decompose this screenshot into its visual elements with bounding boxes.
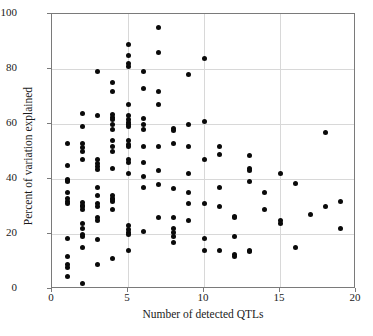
data-point [126, 232, 131, 237]
data-point [186, 201, 191, 206]
data-point [156, 168, 161, 173]
data-point [110, 122, 115, 127]
data-point [95, 69, 100, 74]
data-point [247, 249, 252, 254]
x-tick-label: 10 [188, 292, 218, 303]
data-point [95, 204, 100, 209]
data-point [156, 89, 161, 94]
data-point [156, 25, 161, 30]
x-tick-label: 15 [264, 292, 294, 303]
data-point [80, 157, 85, 162]
data-point [110, 166, 115, 171]
plot-frame [51, 13, 355, 288]
data-point [247, 179, 252, 184]
data-point [171, 234, 176, 239]
data-point [80, 124, 85, 129]
data-point [141, 229, 146, 234]
data-point [232, 234, 237, 239]
data-point [80, 245, 85, 250]
data-point [65, 141, 70, 146]
data-point [232, 215, 237, 220]
data-point [141, 122, 146, 127]
data-point [171, 240, 176, 245]
data-point [65, 236, 70, 241]
data-point [247, 153, 252, 158]
data-point [80, 111, 85, 116]
data-point [338, 199, 343, 204]
data-point [232, 254, 237, 259]
data-point [80, 226, 85, 231]
data-point [95, 185, 100, 190]
data-point [202, 236, 207, 241]
data-point [95, 113, 100, 118]
data-point [278, 221, 283, 226]
data-point [141, 86, 146, 91]
data-point [278, 171, 283, 176]
data-point [95, 193, 100, 198]
y-tick-mark [47, 178, 51, 179]
x-tick-label: 5 [112, 292, 142, 303]
x-tick-mark [127, 288, 128, 292]
data-point [202, 248, 207, 253]
data-point [156, 50, 161, 55]
x-tick-mark [51, 288, 52, 292]
data-point [186, 190, 191, 195]
y-tick-mark [47, 13, 51, 14]
data-point [126, 42, 131, 47]
data-points-layer [52, 14, 354, 287]
data-point [95, 237, 100, 242]
data-point [308, 212, 313, 217]
data-point [80, 281, 85, 286]
data-point [141, 144, 146, 149]
y-tick-mark [47, 68, 51, 69]
y-tick-mark [47, 123, 51, 124]
data-point [262, 207, 267, 212]
data-point [323, 204, 328, 209]
y-tick-mark [47, 233, 51, 234]
y-tick-label: 0 [0, 282, 17, 293]
data-point [156, 144, 161, 149]
data-point [217, 248, 222, 253]
data-point [65, 254, 70, 259]
data-point [126, 248, 131, 253]
data-point [80, 149, 85, 154]
data-point [141, 185, 146, 190]
x-tick-mark [279, 288, 280, 292]
data-point [171, 215, 176, 220]
y-tick-label: 40 [0, 172, 17, 183]
data-point [338, 226, 343, 231]
data-point [186, 218, 191, 223]
data-point [156, 102, 161, 107]
data-point [95, 218, 100, 223]
data-point [202, 119, 207, 124]
data-point [156, 215, 161, 220]
data-point [65, 163, 70, 168]
data-point [80, 207, 85, 212]
data-point [110, 138, 115, 143]
data-point [65, 190, 70, 195]
x-tick-mark [355, 288, 356, 292]
data-point [110, 199, 115, 204]
data-point [126, 64, 131, 69]
data-point [141, 160, 146, 165]
y-tick-label: 20 [0, 227, 17, 238]
data-point [186, 144, 191, 149]
data-point [171, 141, 176, 146]
data-point [217, 144, 222, 149]
data-point [95, 167, 100, 172]
data-point [217, 152, 222, 157]
data-point [247, 168, 252, 173]
data-point [202, 201, 207, 206]
data-point [126, 102, 131, 107]
y-axis-label: Percent of variation explained [22, 46, 34, 266]
data-point [217, 185, 222, 190]
data-point [126, 144, 131, 149]
y-tick-label: 60 [0, 117, 17, 128]
data-point [141, 127, 146, 132]
data-point [110, 127, 115, 132]
data-point [126, 124, 131, 129]
data-point [141, 116, 146, 121]
data-point [80, 234, 85, 239]
data-point [110, 89, 115, 94]
data-point [110, 256, 115, 261]
